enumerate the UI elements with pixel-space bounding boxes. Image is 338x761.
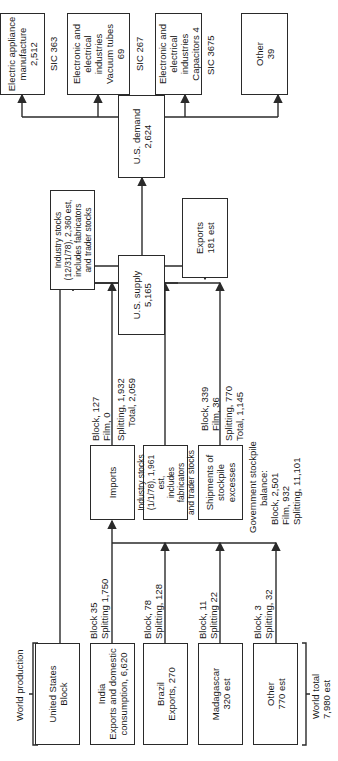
stocks-start-line: includes fabricators — [166, 448, 186, 517]
end-use-line: Other — [254, 42, 265, 66]
stocks-start-line: and trader stocks — [186, 450, 196, 515]
source-detail: Block — [58, 682, 69, 705]
stocks-end-line: Industry stocks — [53, 212, 63, 269]
us-supply-label: U.S. supply — [131, 271, 142, 320]
us-demand-label: U.S. demand — [131, 109, 142, 164]
end-use-line: industries — [179, 34, 190, 75]
brazil-flow-block: Block, 78 — [142, 600, 153, 639]
us-demand-box: U.S. demand 2,624 — [118, 95, 165, 178]
imports-box: Imports — [90, 445, 135, 520]
end-use-line: industries — [93, 34, 104, 75]
india-flow-splitting: Splitting 1,750 — [99, 579, 110, 639]
end-use-line: electrical — [82, 35, 93, 73]
end-use-line: 2,512 — [28, 42, 39, 66]
source-detail: Exports and domestic consumption, 6,620 — [107, 646, 129, 742]
end-use-line: Vacuum tubes — [104, 24, 115, 84]
stocks-end-line: and trader stocks — [83, 207, 93, 272]
madagascar-flow-splitting: Splitting 22 — [208, 592, 219, 639]
sic-267: SIC 267 — [134, 37, 145, 71]
stocks-start-line: (1/1/78), 1,961 est, — [146, 448, 166, 517]
source-united-states: United States Block — [35, 643, 80, 745]
imports-flow-total: Total, 2,059 — [126, 378, 137, 427]
mica-flow-diagram: World production United States Block Ind… — [0, 0, 338, 761]
stocks-end-line: includes fabricators — [73, 203, 83, 276]
world-total-label: World total — [310, 674, 321, 719]
exports-box: Exports 181 est — [182, 198, 228, 278]
end-use-capacitors: Electronic and electrical industries Cap… — [155, 13, 202, 95]
end-use-line: Electronic and — [157, 24, 168, 84]
gov-stockpile-splitting: Splitting, 11,101 — [291, 458, 302, 525]
us-demand-value: 2,624 — [142, 125, 153, 149]
source-detail: 320 est — [221, 678, 232, 709]
source-india: India Exports and domestic consumption, … — [90, 643, 135, 745]
source-name: India — [96, 684, 107, 705]
us-supply-value: 5,165 — [142, 283, 153, 307]
imports-flow-splitting: Splitting, 1,932 — [115, 378, 126, 441]
gov-stockpile-title: Government stockpile — [247, 441, 258, 533]
exports-value: 181 est — [205, 222, 216, 253]
imports-flow-block: Block, 127 — [90, 397, 101, 441]
shipments-flow-block: Block, 339 — [199, 387, 210, 431]
madagascar-flow-block: Block, 11 — [197, 601, 208, 639]
gov-stockpile-block: Block, 2,501 — [269, 473, 280, 525]
gov-stockpile-film: Film, 932 — [280, 486, 291, 525]
world-total-value: 7,980 est — [321, 680, 332, 719]
shipments-flow-film: Film, 36 — [210, 397, 221, 431]
source-name: Brazil — [155, 682, 166, 706]
imports-label: Imports — [107, 467, 118, 499]
industry-stocks-start-box: Industry stocks (1/1/78), 1,961 est, inc… — [143, 445, 188, 520]
end-use-other: Other 39 — [241, 13, 288, 95]
end-use-line: electrical — [168, 35, 179, 73]
us-supply-box: U.S. supply 5,165 — [118, 255, 165, 335]
sic-3675: SIC 3675 — [205, 35, 216, 75]
shipments-line: Shipments of — [204, 455, 215, 510]
world-production-title: World production — [14, 649, 25, 721]
source-other: Other 770 est — [253, 643, 298, 745]
source-brazil: Brazil Exports, 270 — [143, 643, 188, 745]
end-use-line: Capacitors 4 — [190, 27, 201, 80]
end-use-line: Electronic and — [71, 24, 82, 84]
imports-flow-film: Film, 0 — [101, 413, 112, 442]
other-flow-block: Block, 3 — [252, 605, 263, 639]
shipments-flow-total: Total, 1,145 — [234, 392, 245, 441]
end-use-vacuum-tubes: Electronic and electrical industries Vac… — [67, 13, 130, 95]
end-use-line: 69 — [115, 49, 126, 60]
end-use-line: manufacture — [17, 28, 28, 81]
source-name: United States — [47, 665, 58, 722]
end-use-electric-appliance: Electric appliance manufacture 2,512 — [0, 13, 45, 95]
industry-stocks-end-box: Industry stocks (12/31/78), 2,360 est, i… — [50, 190, 95, 290]
shipments-flow-splitting: Splitting, 770 — [223, 386, 234, 441]
gov-stockpile-balance: balance: — [258, 470, 269, 506]
shipments-line: excesses — [226, 463, 237, 503]
source-madagascar: Madagascar 320 est — [198, 643, 243, 745]
source-detail: Exports, 270 — [166, 667, 177, 720]
source-name: Madagascar — [210, 668, 221, 720]
brazil-flow-splitting: Splitting, 128 — [153, 584, 164, 639]
source-detail: 770 est — [276, 678, 287, 709]
other-flow-splitting: Splitting, 32 — [263, 589, 274, 639]
sic-363: SIC 363 — [48, 37, 59, 71]
end-use-line: 39 — [265, 49, 276, 60]
shipments-line: stockpile — [215, 464, 226, 501]
india-flow-block: Block 35 — [88, 603, 99, 639]
stockpile-shipments-box: Shipments of stockpile excesses — [198, 445, 243, 520]
source-name: Other — [265, 682, 276, 706]
stocks-start-line: Industry stocks — [136, 454, 146, 511]
end-use-line: Electric appliance — [6, 17, 17, 91]
stocks-end-line: (12/31/78), 2,360 est, — [63, 200, 73, 281]
exports-label: Exports — [194, 222, 205, 254]
